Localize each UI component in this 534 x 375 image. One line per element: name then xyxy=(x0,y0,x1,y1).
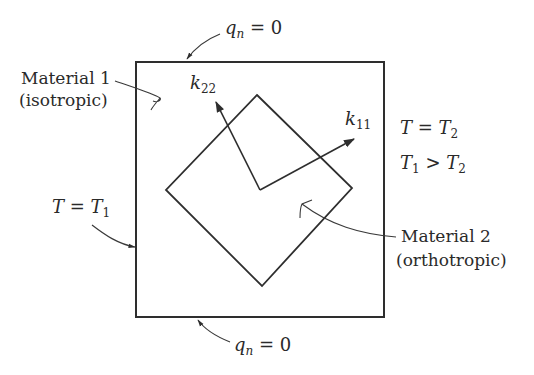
right-boundary-condition: T = T2 xyxy=(400,119,458,140)
k11-axis-arrow xyxy=(260,139,354,190)
material1-label-line2: (isotropic) xyxy=(19,92,108,109)
inner-material-diamond xyxy=(166,95,352,286)
k11-label: k11 xyxy=(345,110,371,131)
left-bc-leader-arrow xyxy=(92,225,135,247)
material1-leader xyxy=(115,81,160,110)
material1-label-line1: Material 1 xyxy=(21,70,111,87)
k22-label: k22 xyxy=(190,74,216,95)
bottom-flux-leader-arrow xyxy=(198,320,230,342)
top-flux-leader-arrow xyxy=(187,34,220,59)
top-flux-label: qn = 0 xyxy=(225,19,282,40)
temperature-inequality: T1 > T2 xyxy=(400,154,466,175)
material2-leader-hook xyxy=(300,200,312,218)
diagram-canvas xyxy=(0,0,534,375)
bottom-flux-label: qn = 0 xyxy=(234,336,291,357)
left-boundary-condition: T = T1 xyxy=(52,198,110,219)
material2-label-line2: (orthotropic) xyxy=(396,252,507,269)
material2-leader xyxy=(302,204,396,237)
material2-label-line1: Material 2 xyxy=(401,228,491,245)
